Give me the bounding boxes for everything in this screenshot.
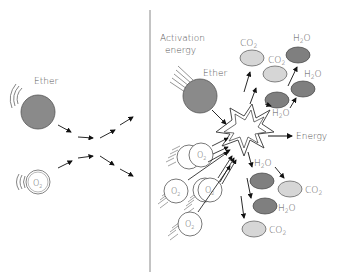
ether-molecule-left bbox=[21, 95, 55, 129]
h2o-label: H2O bbox=[293, 33, 311, 44]
h2o-label: H2O bbox=[278, 203, 296, 214]
co2-label: CO2 bbox=[305, 185, 322, 196]
co2-molecule bbox=[263, 66, 287, 82]
trajectory-arrows bbox=[58, 117, 133, 176]
ether-label-left: Ether bbox=[34, 76, 58, 86]
co2-molecule bbox=[278, 181, 302, 197]
right-panel: Activation energy Ether Energy CO2 CO2 H… bbox=[158, 33, 327, 240]
motion-lines-icon bbox=[17, 174, 26, 190]
h2o-molecule bbox=[286, 47, 310, 63]
h2o-label: H2O bbox=[254, 158, 272, 169]
activation-energy-label: Activation bbox=[160, 33, 205, 43]
co2-label: CO2 bbox=[269, 225, 286, 236]
co2-molecule bbox=[242, 221, 266, 237]
ether-molecule-right bbox=[183, 79, 217, 113]
co2-molecule bbox=[240, 50, 264, 66]
co2-label: CO2 bbox=[240, 38, 257, 49]
ether-label-right: Ether bbox=[203, 68, 227, 78]
h2o-molecule bbox=[253, 198, 277, 214]
h2o-molecule bbox=[250, 173, 274, 189]
h2o-label: H2O bbox=[272, 108, 290, 119]
combustion-diagram: Ether O2 Activation bbox=[0, 0, 342, 280]
svg-text:energy: energy bbox=[165, 45, 196, 55]
h2o-label: H2O bbox=[304, 69, 322, 80]
co2-label: CO2 bbox=[268, 55, 285, 66]
motion-lines-icon bbox=[10, 84, 22, 108]
energy-label: Energy bbox=[296, 131, 327, 141]
h2o-molecule bbox=[291, 81, 315, 97]
left-panel: Ether O2 bbox=[10, 76, 133, 194]
